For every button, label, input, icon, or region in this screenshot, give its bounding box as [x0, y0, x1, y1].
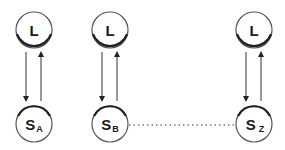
diagram: L SA L SB L SZ — [0, 0, 285, 150]
node-label-s-b: SB — [101, 117, 119, 134]
label-text: L — [29, 22, 38, 39]
label-text: S — [101, 116, 111, 133]
label-subscript: A — [36, 124, 43, 134]
label-text: L — [249, 22, 258, 39]
label-text: S — [246, 116, 256, 133]
label-text: S — [25, 116, 35, 133]
node-label-l-a: L — [29, 23, 38, 39]
node-label-s-a: SA — [25, 117, 43, 134]
label-subscript: B — [112, 124, 119, 134]
label-subscript: Z — [259, 124, 265, 134]
node-label-l-b: L — [105, 23, 114, 39]
label-text: L — [105, 22, 114, 39]
node-label-s-z: SZ — [246, 117, 265, 134]
node-label-l-z: L — [249, 23, 258, 39]
